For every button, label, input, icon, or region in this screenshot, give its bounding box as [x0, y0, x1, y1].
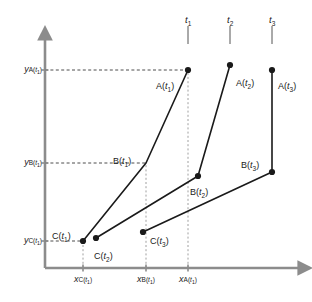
y-axis-tick-label-yC: yC(t1) [2, 235, 42, 246]
y-axis-tick-label-yB: yB(t1) [2, 157, 42, 168]
point-label-At1: A(t1) [156, 82, 174, 91]
trajectory-t1 [83, 70, 188, 241]
trajectory-t3 [143, 70, 272, 232]
data-point-C1 [80, 238, 86, 244]
data-point-B3 [269, 169, 275, 175]
point-label-Bt2: B(t2) [190, 188, 208, 197]
data-point-C2 [93, 235, 99, 241]
data-point-B2 [195, 173, 201, 179]
point-label-At2: A(t2) [236, 79, 254, 88]
point-label-At3: A(t3) [278, 82, 296, 91]
data-point-A3 [269, 67, 275, 73]
point-label-Ct2: C(t2) [94, 252, 113, 261]
data-point-C3 [140, 229, 146, 235]
figure-canvas: t1t2t3A(t1)A(t2)A(t3)B(t1)B(t2)B(t3)C(t1… [0, 0, 312, 302]
time-label-t2: t2 [227, 14, 233, 25]
time-label-t3: t3 [269, 14, 275, 25]
time-label-t1: t1 [185, 14, 191, 25]
diagram-svg [0, 0, 312, 302]
y-axis-tick-label-yA: yA(t1) [2, 64, 42, 75]
x-axis-tick-label-xC: xC(t1) [65, 274, 101, 285]
data-point-A1 [185, 67, 191, 73]
data-point-A2 [227, 62, 233, 68]
x-axis-tick-label-xB: xB(t1) [128, 274, 164, 285]
point-label-Ct3: C(t3) [150, 237, 169, 246]
point-label-Bt1: B(t1) [113, 157, 131, 166]
x-axis-tick-label-xA: xA(t1) [170, 274, 206, 285]
point-label-Bt3: B(t3) [241, 161, 259, 170]
point-label-Ct1: C(t1) [52, 232, 71, 241]
